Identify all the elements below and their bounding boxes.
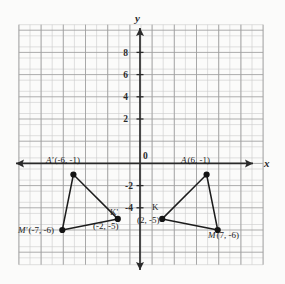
y-tick-8: 8: [123, 48, 128, 58]
label-m-prime: M'(-7, -6): [17, 225, 54, 235]
y-tick-4: 4: [123, 92, 128, 102]
figure-background: [0, 0, 285, 284]
label-k-name: K: [152, 202, 159, 212]
label-m: M(7, -6): [207, 230, 239, 240]
label-k-prime-name: K': [110, 207, 118, 217]
vertex-dot-a-prime: [70, 171, 76, 177]
label-a: A(6, -1): [180, 155, 210, 165]
label-k-coords: (2, -5): [137, 215, 160, 225]
y-tick-neg4: -4: [125, 203, 133, 213]
y-tick-6: 6: [123, 70, 128, 80]
y-tick-2: 2: [123, 114, 128, 124]
label-k-prime-coords: (-2, -5): [93, 221, 119, 231]
vertex-dot-k: [159, 216, 165, 222]
label-a-prime: A'(-6, -1): [45, 155, 80, 165]
x-axis-label: x: [263, 157, 270, 169]
y-tick-neg2: -2: [125, 181, 133, 191]
vertex-dot-a: [204, 171, 210, 177]
coordinate-plane-figure: x y 0 8 6 4 2 -2 -4 A'(-6, -1) A(6, -1) …: [0, 0, 285, 284]
origin-label: 0: [143, 151, 148, 161]
y-axis-label: y: [133, 12, 140, 24]
vertex-dot-m-prime: [59, 227, 65, 233]
